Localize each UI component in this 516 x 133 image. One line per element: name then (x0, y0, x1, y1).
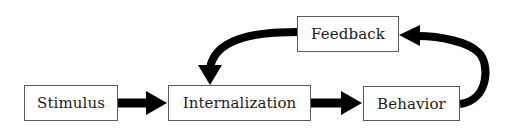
arrow-stimulus-to-internalization (118, 91, 167, 115)
stimulus-node: Stimulus (24, 85, 118, 121)
internalization-label: Internalization (183, 94, 297, 112)
behavior-label: Behavior (377, 95, 446, 113)
arrow-internalization-to-behavior (311, 91, 362, 115)
feedback-loop-diagram: Stimulus Internalization Behavior Feedba… (0, 0, 516, 133)
feedback-label: Feedback (311, 25, 385, 43)
feedback-node: Feedback (297, 16, 399, 52)
behavior-node: Behavior (363, 86, 460, 121)
arrow-feedback-to-internalization (198, 32, 297, 85)
stimulus-label: Stimulus (37, 94, 105, 112)
internalization-node: Internalization (168, 85, 311, 121)
